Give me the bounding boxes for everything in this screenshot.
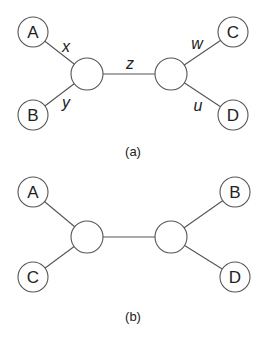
- leaf-label: C: [227, 23, 239, 42]
- internal-node-right: [155, 58, 187, 90]
- tree-b: A C B D (b): [18, 177, 250, 324]
- edge-label: z: [125, 55, 134, 72]
- caption-a: (a): [125, 144, 141, 159]
- edge-label: w: [191, 35, 204, 52]
- leaf-label: B: [27, 106, 38, 125]
- edge-label: u: [194, 97, 203, 114]
- edge-label: x: [61, 38, 71, 55]
- internal-node-left: [71, 221, 103, 253]
- tree-diagrams: A B C D x y z w u (a) A C B D (b): [0, 0, 266, 338]
- leaf-label: B: [229, 183, 240, 202]
- edge-label: y: [61, 94, 71, 111]
- internal-node-left: [71, 58, 103, 90]
- leaf-label: D: [227, 106, 239, 125]
- leaf-label: D: [229, 268, 241, 287]
- caption-b: (b): [125, 309, 141, 324]
- leaf-label: A: [27, 23, 39, 42]
- internal-node-right: [155, 221, 187, 253]
- leaf-label: A: [27, 183, 39, 202]
- tree-a: A B C D x y z w u (a): [18, 17, 248, 159]
- leaf-label: C: [27, 268, 39, 287]
